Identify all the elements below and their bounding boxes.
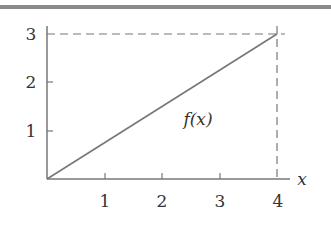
x-tick-label: 2 xyxy=(157,191,168,211)
function-line xyxy=(47,34,277,179)
y-tick-label: 1 xyxy=(26,121,37,141)
x-ticks xyxy=(105,173,220,179)
chart: 1 2 3 4 1 2 3 x f(x) xyxy=(0,0,331,230)
x-axis-label: x xyxy=(297,169,307,189)
y-tick-label: 2 xyxy=(26,72,37,92)
y-tick-label: 3 xyxy=(26,24,37,44)
x-tick-label: 4 xyxy=(273,191,284,211)
x-tick-label: 3 xyxy=(215,191,226,211)
function-label: f(x) xyxy=(181,109,212,129)
x-tick-label: 1 xyxy=(100,191,111,211)
y-ticks xyxy=(47,82,53,131)
